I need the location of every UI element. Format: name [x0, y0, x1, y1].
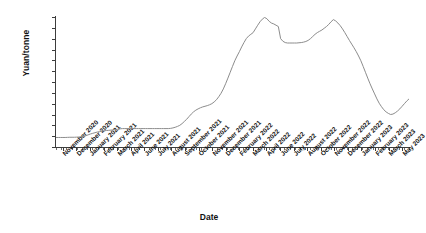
x-axis-title: Date [0, 212, 418, 222]
y-axis-title: Yuan/tonne [19, 3, 33, 103]
price-series-line [56, 17, 409, 147]
plot-area [56, 17, 409, 147]
x-axis-minor-tick [56, 148, 57, 150]
